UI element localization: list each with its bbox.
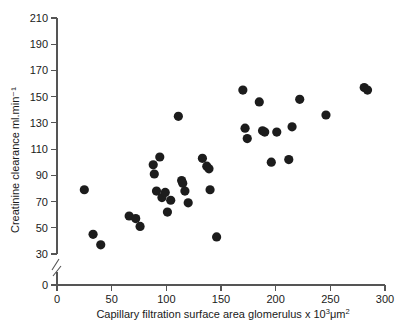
- data-point: [198, 154, 207, 163]
- data-point: [287, 122, 296, 131]
- y-tick-label-110: 110: [30, 143, 48, 155]
- chart-svg: Creatinine clearance ml.min⁻¹ 3050709011…: [0, 0, 408, 336]
- x-tick-label-200: 200: [266, 293, 284, 305]
- data-point: [178, 179, 187, 188]
- y-tick-label-90: 90: [36, 169, 48, 181]
- x-tick-label-0: 0: [54, 293, 60, 305]
- y-axis-title: Creatinine clearance ml.min⁻¹: [9, 87, 21, 233]
- data-point: [267, 158, 276, 167]
- data-point: [243, 134, 252, 143]
- data-point: [240, 124, 249, 133]
- data-point: [149, 160, 158, 169]
- data-points-layer: [80, 83, 372, 250]
- x-tick-label-150: 150: [212, 293, 230, 305]
- data-point: [180, 186, 189, 195]
- x-axis-title: Capillary filtration surface area glomer…: [96, 307, 349, 320]
- x-axis-title-units: μm: [330, 308, 346, 320]
- y-tick-label-190: 190: [30, 38, 48, 50]
- x-axis-title-text: Capillary filtration surface area glomer…: [96, 308, 325, 320]
- y-tick-label-30: 30: [36, 248, 48, 260]
- data-point: [205, 185, 214, 194]
- data-point: [155, 152, 164, 161]
- x-axis-ticks: 050100150200250300: [54, 285, 394, 305]
- data-point: [295, 95, 304, 104]
- x-tick-label-100: 100: [157, 293, 175, 305]
- data-point: [212, 232, 221, 241]
- data-point: [255, 97, 264, 106]
- data-point: [163, 207, 172, 216]
- y-tick-label-zero: 0: [42, 279, 48, 291]
- data-point: [321, 110, 330, 119]
- data-point: [80, 185, 89, 194]
- data-point: [161, 188, 170, 197]
- y-tick-label-70: 70: [36, 196, 48, 208]
- data-point: [150, 169, 159, 178]
- data-point: [131, 214, 140, 223]
- data-point: [166, 196, 175, 205]
- data-point: [174, 112, 183, 121]
- y-tick-label-210: 210: [30, 12, 48, 24]
- data-point: [88, 230, 97, 239]
- data-point: [135, 222, 144, 231]
- data-point: [260, 127, 269, 136]
- x-axis-title-units-exponent: 2: [345, 307, 349, 316]
- y-axis-ticks: 30507090110130150170190210: [30, 12, 57, 260]
- y-tick-label-50: 50: [36, 222, 48, 234]
- x-tick-label-50: 50: [106, 293, 118, 305]
- scatter-plot-figure: Creatinine clearance ml.min⁻¹ 3050709011…: [0, 0, 408, 336]
- y-tick-label-150: 150: [30, 91, 48, 103]
- data-point: [272, 127, 281, 136]
- data-point: [96, 240, 105, 249]
- y-tick-label-130: 130: [30, 117, 48, 129]
- data-point: [363, 86, 372, 95]
- data-point: [284, 155, 293, 164]
- data-point: [204, 164, 213, 173]
- data-point: [184, 198, 193, 207]
- x-tick-label-300: 300: [376, 293, 394, 305]
- data-point: [238, 86, 247, 95]
- y-tick-label-170: 170: [30, 64, 48, 76]
- x-tick-label-250: 250: [321, 293, 339, 305]
